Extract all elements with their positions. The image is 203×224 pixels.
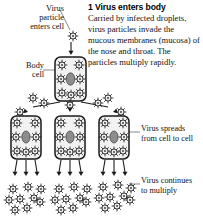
- body-cell-mid-right: [99, 116, 129, 159]
- virus-particle-icon-entering: [68, 31, 78, 41]
- virus-cluster-left: [4, 182, 46, 215]
- step-title: 1 Virus enters body: [88, 3, 201, 12]
- release-arrowheads: [13, 172, 128, 176]
- label-line-1: Virus continues: [141, 176, 203, 186]
- label-line-1: Virus spreads: [141, 124, 203, 134]
- label-virus-spreads: Virus spreads from cell to cell: [141, 124, 203, 144]
- label-line-2: cell: [2, 71, 44, 80]
- body-cell-mid-center: [55, 116, 85, 159]
- down-arrow-icon-right: [112, 108, 117, 114]
- body-cell-top: [55, 57, 86, 101]
- label-line-3: enters cell: [2, 23, 64, 32]
- step-text-block: 1 Virus enters body Carried by infected …: [88, 3, 201, 68]
- label-line-2: from cell to cell: [141, 134, 203, 144]
- release-arrows: [15, 160, 125, 172]
- label-line-2: to multiply: [141, 186, 203, 196]
- down-arrow-icon-left: [23, 108, 28, 114]
- virus-cluster-center: [50, 182, 92, 215]
- label-virus-continues-to-multiply: Virus continues to multiply: [141, 176, 203, 196]
- figure-canvas: Virus particle enters cell Body cell 1 V…: [0, 0, 203, 224]
- label-body-cell: Body cell: [2, 62, 44, 80]
- label-virus-particle-enters-cell: Virus particle enters cell: [2, 5, 64, 32]
- step-body-text: Carried by infected droplets, virus part…: [88, 13, 201, 68]
- down-arrow-icon-entry: [69, 42, 74, 55]
- virus-cluster-right: [94, 180, 136, 213]
- body-cell-mid-left: [11, 116, 41, 159]
